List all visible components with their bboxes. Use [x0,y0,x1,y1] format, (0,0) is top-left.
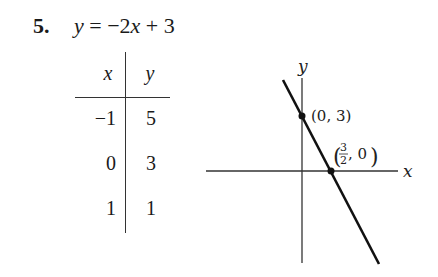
fraction-denominator: 2 [340,154,347,167]
y-axis-label: y [297,56,308,76]
point-label-y-intercept: (0, 3) [311,107,351,125]
fraction-rest: , 0 [348,145,367,163]
point-y-intercept [299,113,306,120]
fraction-numerator: 3 [340,141,347,154]
x-axis-label: x [403,161,413,181]
paren-close: ) [370,144,379,169]
point-label-x-intercept: ( 3 2 , 0 ) [333,141,379,169]
line-graph: y x (0, 3) ( 3 2 , 0 ) [0,0,438,277]
